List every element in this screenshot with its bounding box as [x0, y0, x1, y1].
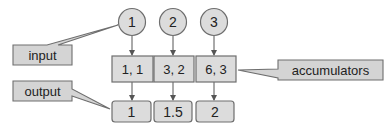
input-node-3: 3	[201, 9, 228, 36]
input-value: 3	[210, 14, 218, 30]
input-callout-label: input	[28, 48, 57, 63]
output-callout-label: output	[24, 84, 61, 99]
accumulator-value: 6, 3	[205, 62, 227, 77]
running-average-diagram: 1 2 3 1, 1 3, 2 6, 3 1 1.5 2 input	[0, 0, 392, 131]
accumulator-box-1: 1, 1	[112, 56, 153, 82]
input-node-2: 2	[160, 9, 187, 36]
output-value: 1.5	[163, 104, 183, 120]
input-value: 2	[169, 14, 177, 30]
input-callout: input	[13, 25, 118, 65]
accumulators-callout-label: accumulators	[292, 63, 370, 78]
accumulator-box-2: 3, 2	[154, 56, 194, 82]
output-callout: output	[13, 81, 110, 109]
input-arrows	[132, 36, 214, 55]
input-node-1: 1	[119, 9, 146, 36]
input-value: 1	[128, 14, 136, 30]
accumulators-callout: accumulators	[238, 60, 383, 80]
output-box-1: 1	[112, 101, 151, 122]
output-value: 1	[128, 104, 136, 120]
output-arrows	[132, 82, 214, 100]
output-value: 2	[211, 104, 219, 120]
output-box-3: 2	[196, 101, 234, 122]
accumulator-value: 1, 1	[122, 62, 144, 77]
accumulator-box-3: 6, 3	[196, 56, 236, 82]
accumulator-value: 3, 2	[163, 62, 185, 77]
output-box-2: 1.5	[154, 101, 192, 122]
